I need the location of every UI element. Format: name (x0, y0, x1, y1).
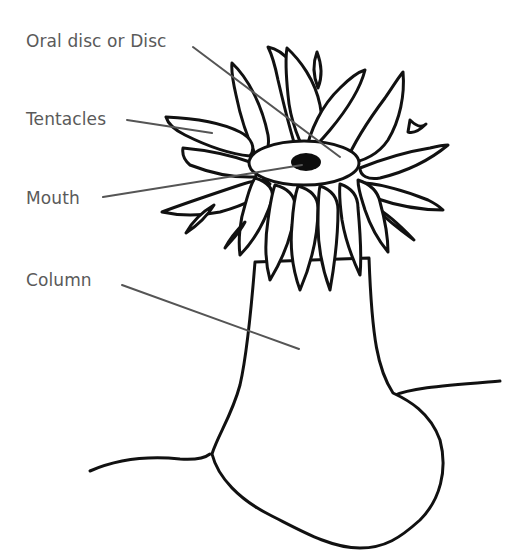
column-body (212, 258, 443, 548)
label-mouth: Mouth (26, 190, 80, 207)
label-oral-disc: Oral disc or Disc (26, 33, 167, 50)
mouth (291, 153, 321, 171)
label-column: Column (26, 272, 92, 289)
ground-line-right (393, 381, 500, 396)
sea-anemone-diagram: Oral disc or Disc Tentacles Mouth Column (0, 0, 519, 555)
ground-line-left (90, 454, 210, 471)
label-tentacles: Tentacles (26, 111, 106, 128)
